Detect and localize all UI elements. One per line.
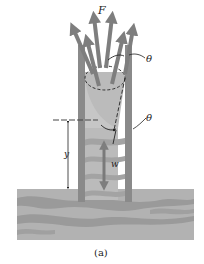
tube-wall-left: [78, 45, 85, 202]
force-arrow: [106, 17, 112, 68]
force-arrow: [94, 17, 100, 68]
angle-label-bottom: θ: [146, 112, 152, 123]
capillary-rise-diagram: F θ θ y w (a): [0, 0, 204, 264]
height-label: y: [63, 149, 70, 159]
figure-caption: (a): [94, 247, 108, 258]
angle-label-top: θ: [146, 53, 152, 64]
force-label: F: [97, 4, 106, 17]
weight-label: w: [111, 159, 119, 169]
